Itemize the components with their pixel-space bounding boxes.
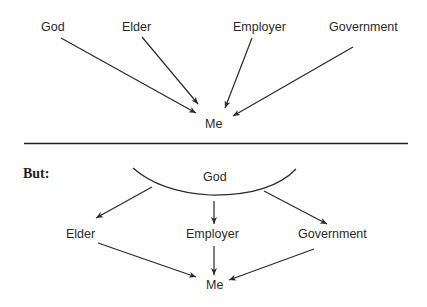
bottom-node-employer: Employer (186, 227, 239, 241)
bottom-node-me: Me (206, 278, 223, 292)
bottom-node-elder: Elder (66, 227, 95, 241)
arrow-god-to-government (264, 191, 327, 224)
bottom-diagram: But: God Elder Employer Government Me (23, 166, 367, 292)
arrow-god-to-elder (96, 187, 152, 218)
but-heading: But: (23, 166, 49, 181)
arrow-employer-to-me (225, 38, 252, 108)
top-node-elder: Elder (122, 20, 151, 34)
arrow-elder-to-me (142, 37, 198, 104)
bottom-node-god: God (203, 170, 227, 184)
top-diagram: God Elder Employer Government Me (41, 20, 398, 131)
top-node-me: Me (205, 117, 222, 131)
bottom-node-government: Government (298, 227, 367, 241)
top-node-employer: Employer (233, 20, 286, 34)
arrow-elder-to-me (98, 243, 196, 277)
arrow-god-to-me (61, 38, 196, 113)
arrow-government-to-me (229, 249, 314, 280)
arrow-government-to-me (233, 47, 353, 116)
top-node-government: Government (329, 20, 398, 34)
authority-diagram: God Elder Employer Government Me But: Go… (0, 0, 427, 307)
top-node-god: God (41, 20, 65, 34)
